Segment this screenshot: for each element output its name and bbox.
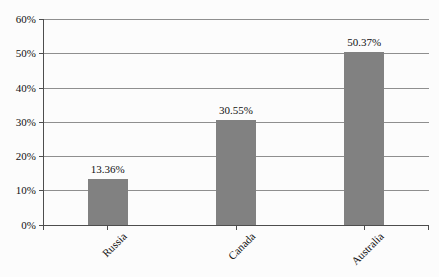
bar-value-label: 13.36% [73,163,143,176]
x-tick-label: Australia [349,230,386,267]
y-tick-label: 60% [4,13,36,26]
bar [216,120,256,225]
x-axis-tick [236,226,237,231]
y-tick-label: 0% [4,219,36,232]
y-tick-label: 10% [4,184,36,197]
x-axis-line [43,225,429,226]
x-axis-tick [364,226,365,231]
bar [88,179,128,225]
gridline [44,19,429,20]
y-tick-label: 50% [4,47,36,60]
x-axis-tick [107,226,108,231]
y-tick-label: 40% [4,82,36,95]
bar [344,52,384,225]
bar-chart: 0%10%20%30%40%50%60% 13.36%30.55%50.37% … [0,0,439,277]
y-tick-label: 30% [4,116,36,129]
y-tick-label: 20% [4,150,36,163]
x-axis-end-tick [428,226,429,230]
bar-value-label: 50.37% [329,36,399,49]
x-tick-label: Canada [226,230,258,262]
y-axis-line [43,20,44,231]
x-tick-label: Russia [100,230,129,259]
bar-value-label: 30.55% [201,104,271,117]
